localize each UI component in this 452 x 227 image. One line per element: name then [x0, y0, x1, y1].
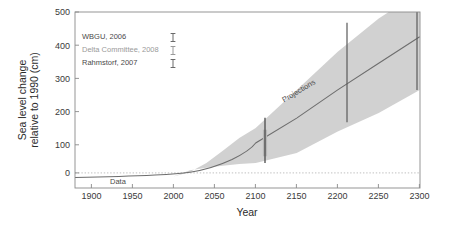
legend-label-wbgu: WBGU, 2006	[82, 32, 126, 41]
y-tick-label: 300	[55, 74, 70, 84]
x-tick-label: 2250	[368, 191, 388, 201]
x-tick-label: 2050	[204, 191, 224, 201]
x-tick-label: 1900	[81, 191, 101, 201]
x-tick-label: 2100	[245, 191, 265, 201]
sea-level-projection-chart: 500 400 300 200 100 0 1900 1950 2000 205…	[0, 0, 452, 227]
y-tick-label: 200	[55, 107, 70, 117]
x-tick-label: 2200	[327, 191, 347, 201]
x-axis-title: Year	[236, 206, 258, 218]
y-axis-title: Sea level change relative to 1990 (cm)	[16, 52, 40, 148]
y-tick-label: 0	[65, 168, 70, 178]
chart-svg: 500 400 300 200 100 0 1900 1950 2000 205…	[0, 0, 452, 227]
x-tick-label: 2300	[409, 191, 429, 201]
y-axis-title-line1: Sea level change	[16, 60, 28, 141]
x-tick-label: 2150	[286, 191, 306, 201]
x-tick-labels: 1900 1950 2000 2050 2100 2150 2200 2250 …	[81, 191, 429, 201]
legend-label-rahmstorf: Rahmstorf, 2007	[82, 58, 137, 67]
x-tick-label: 1950	[122, 191, 142, 201]
y-axis-title-line2: relative to 1990 (cm)	[28, 52, 40, 148]
x-tick-label: 2000	[163, 191, 183, 201]
y-tick-label: 400	[55, 41, 70, 51]
y-tick-label: 100	[55, 140, 70, 150]
legend-label-delta-committee: Delta Committee, 2008	[82, 45, 159, 54]
data-annotation: Data	[110, 177, 127, 186]
y-tick-label: 500	[55, 7, 70, 17]
